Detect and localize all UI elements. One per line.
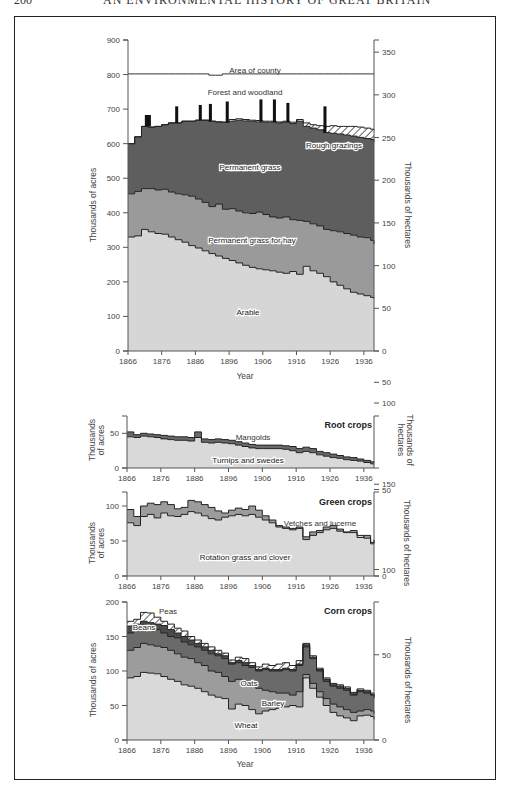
label-wheat: Wheat (234, 721, 258, 730)
forest-bar (259, 99, 262, 121)
x-tick-label: 1886 (186, 582, 204, 591)
forest-bar (323, 106, 326, 132)
x-tick-label: 1896 (220, 474, 238, 483)
x-tick-label: 1876 (153, 357, 171, 366)
x-tick-label: 1916 (287, 582, 305, 591)
x-tick-label: 1896 (220, 357, 238, 366)
y-tick-label: 0 (115, 464, 120, 473)
y-right-tick-label: 250 (382, 134, 396, 143)
y-right-tick-label: 100 (382, 566, 396, 575)
y-axis-title-right: Thousands of hectares (403, 162, 413, 248)
label-turnips-swedes: Turnips and swedes (212, 456, 283, 465)
y-tick-label: 600 (107, 140, 121, 149)
x-tick-label: 1916 (287, 474, 305, 483)
label-peas: Peas (159, 607, 177, 616)
y-right-tick-label: 100 (382, 399, 396, 408)
label-oats: Oats (241, 679, 258, 688)
green-crops-title: Green crops (319, 497, 372, 507)
x-tick-label: 1916 (288, 357, 306, 366)
x-tick-label: 1926 (321, 474, 339, 483)
corn-y-title-left: Thousands of acres (88, 643, 98, 718)
y-tick-label: 200 (107, 278, 121, 287)
forest-bar (226, 102, 229, 123)
y-tick-label: 900 (107, 36, 121, 45)
forest-bar (273, 99, 276, 122)
x-tick-label: 1896 (220, 582, 238, 591)
y-tick-label: 0 (115, 572, 120, 581)
y-tick-label: 100 (107, 312, 121, 321)
y-tick-label: 0 (115, 736, 120, 745)
x-tick-label: 1926 (321, 582, 339, 591)
x-tick-label: 1906 (253, 474, 271, 483)
label-forest-woodland: Forest and woodland (208, 88, 283, 97)
label-rough-grazings: Rough grazings (306, 141, 362, 150)
corn-crops-title: Corn crops (324, 606, 372, 616)
x-tick-label: 1866 (118, 474, 136, 483)
corn-y-title-right: Thousands of hectares (403, 637, 413, 723)
label-mangolds: Mangolds (236, 433, 271, 442)
label-barley: Barley (262, 699, 285, 708)
green-y-title-right: Thousands of hectares (402, 500, 412, 586)
x-tick-label: 1916 (287, 746, 305, 755)
y-right-tick-label: 50 (382, 378, 391, 387)
label-arable: Arable (236, 308, 260, 317)
y-right-tick-label: 0 (382, 736, 387, 745)
x-tick-label: 1906 (253, 746, 271, 755)
x-tick-label: 1866 (119, 357, 137, 366)
y-tick-label: 150 (106, 633, 120, 642)
x-tick-label: 1876 (152, 582, 170, 591)
label-area-of-county: Area of county (229, 66, 281, 75)
forest-bar (199, 105, 202, 120)
x-tick-label: 1886 (186, 474, 204, 483)
y-right-tick-label: 50 (382, 651, 391, 660)
figure-charts: 1866187618861896190619161926193601002003… (0, 0, 511, 794)
label-permanent-grass: Permanent grass (220, 163, 281, 172)
y-right-tick-label: 200 (382, 176, 396, 185)
forest-bar (175, 106, 178, 123)
y-tick-label: 200 (106, 598, 120, 607)
land-use-chart: 1866187618861896190619161926193601002003… (88, 36, 413, 381)
x-tick-label: 1866 (118, 582, 136, 591)
x-tick-label: 1926 (321, 746, 339, 755)
y-right-tick-label: 350 (382, 48, 396, 57)
x-tick-label: 1886 (186, 357, 204, 366)
x-tick-label: 1896 (220, 746, 238, 755)
x-tick-label: 1936 (355, 746, 373, 755)
y-right-tick-label: 0 (382, 347, 387, 356)
forest-bar (286, 103, 289, 122)
y-tick-label: 100 (106, 667, 120, 676)
corn-x-title: Year (236, 759, 253, 769)
x-tick-label: 1936 (355, 582, 373, 591)
y-tick-label: 300 (107, 243, 121, 252)
y-tick-label: 0 (116, 347, 121, 356)
label-rotation-grass-clover: Rotation grass and clover (200, 553, 291, 562)
label-vetches-lucerne: Vetches and lucerne (284, 519, 357, 528)
y-right-tick-label: 50 (382, 304, 391, 313)
y-right-tick-label: 300 (382, 91, 396, 100)
x-tick-label: 1906 (254, 357, 272, 366)
x-tick-label: 1876 (152, 746, 170, 755)
label-beans: Beans (133, 623, 156, 632)
y-tick-label: 800 (107, 71, 121, 80)
green-crops-areas (127, 500, 374, 576)
root-y-right-2: hectares (396, 424, 406, 457)
y-right-tick-label: 150 (382, 219, 396, 228)
y-axis-title-left: Thousands of acres (88, 168, 98, 243)
forest-bar (209, 104, 212, 121)
x-tick-label: 1866 (118, 746, 136, 755)
y-right-tick-label: 150 (382, 480, 396, 489)
x-tick-label: 1886 (186, 746, 204, 755)
label-permanent-grass-hay: Permanent grass for hay (208, 236, 296, 245)
x-tick-label: 1876 (152, 474, 170, 483)
y-tick-label: 50 (110, 537, 119, 546)
x-tick-label: 1926 (321, 357, 339, 366)
x-tick-label: 1936 (355, 474, 373, 483)
root-crops-title: Root crops (324, 420, 372, 430)
root-crops-chart: 1866187618861896190619161926193605050 Ro… (87, 378, 415, 483)
y-tick-label: 50 (110, 702, 119, 711)
x-tick-label: 1906 (253, 582, 271, 591)
y-tick-label: 100 (106, 502, 120, 511)
x-axis-title: Year (236, 371, 253, 381)
y-tick-label: 700 (107, 105, 121, 114)
root-y-title-2: of acres (96, 425, 106, 455)
